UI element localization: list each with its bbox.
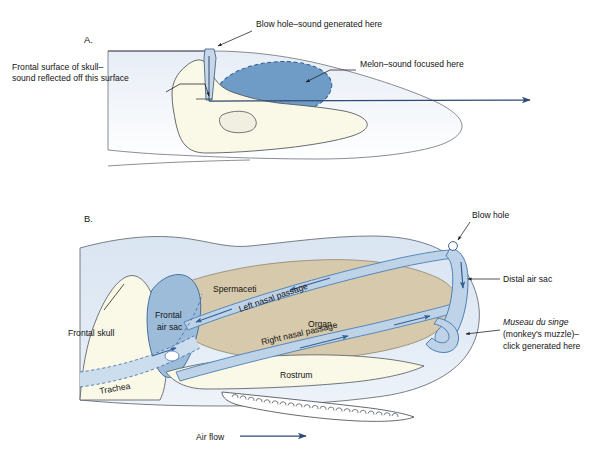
- label-distal-air-sac: Distal air sac: [503, 274, 553, 284]
- label-melon-sound-focused: Melon–sound focused here: [360, 59, 464, 69]
- panel-a-skull-cavity: [219, 111, 256, 132]
- label-rostrum: Rostrum: [280, 370, 312, 380]
- figure-canvas: A. Blow hole–sound generated here Fronta…: [0, 0, 594, 456]
- panel-a-label: A.: [84, 34, 93, 45]
- whale-sound-anatomy-figure: A. Blow hole–sound generated here Fronta…: [0, 0, 594, 456]
- label-museau-du-singe-line3: click generated here: [503, 341, 581, 351]
- label-spermaceti: Spermaceti: [213, 284, 257, 294]
- label-blow-hole-sound: Blow hole–sound generated here: [256, 19, 382, 29]
- label-museau-du-singe-line2: (monkey's muzzle)–: [503, 329, 579, 339]
- label-frontal-air-sac-line2: air sac: [157, 322, 183, 332]
- label-frontal-air-sac-line1: Frontal: [155, 310, 182, 320]
- label-blow-hole: Blow hole: [472, 210, 509, 220]
- label-frontal-surface-line2: sound reflected off this surface: [12, 73, 129, 83]
- panel-b-label: B.: [84, 213, 93, 224]
- label-frontal-skull: Frontal skull: [68, 328, 114, 338]
- label-museau-du-singe-line1: Museau du singe: [503, 317, 569, 327]
- label-air-flow: Air flow: [196, 432, 225, 442]
- label-frontal-surface-line1: Frontal surface of skull–: [12, 62, 103, 72]
- blow-hole-shape: [449, 242, 458, 251]
- nasal-valve-shape: [165, 351, 179, 361]
